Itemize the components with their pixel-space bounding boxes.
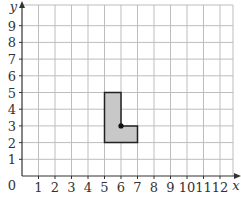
y-tick-label: 4 — [8, 102, 16, 117]
axes — [19, 1, 241, 179]
y-tick-label: 8 — [8, 35, 16, 50]
x-tick-label: 10 — [179, 180, 196, 195]
origin-label: 0 — [8, 178, 16, 193]
coordinate-grid: 1234567891011121234567890xy — [0, 0, 241, 198]
x-tick-label: 11 — [195, 180, 212, 195]
y-axis-label: y — [9, 0, 18, 14]
y-tick-label: 7 — [8, 52, 16, 67]
y-tick-label: 9 — [8, 19, 16, 34]
x-tick-label: 7 — [133, 180, 141, 195]
x-tick-label: 8 — [150, 180, 158, 195]
x-axis-label: x — [232, 178, 240, 193]
y-tick-label: 5 — [8, 86, 16, 101]
y-tick-label: 3 — [8, 119, 16, 134]
x-tick-label: 3 — [67, 180, 75, 195]
x-tick-label: 5 — [100, 180, 108, 195]
x-tick-label: 12 — [212, 180, 229, 195]
x-tick-label: 4 — [84, 180, 92, 195]
x-tick-label: 9 — [166, 180, 174, 195]
x-tick-label: 1 — [34, 180, 42, 195]
grid-lines — [22, 5, 233, 176]
tick-labels: 1234567891011121234567890xy — [8, 0, 241, 195]
y-tick-label: 2 — [8, 136, 16, 151]
x-tick-label: 2 — [51, 180, 59, 195]
l-shape — [105, 93, 138, 143]
y-tick-label: 1 — [8, 152, 16, 167]
l-shape-polygon — [105, 93, 138, 143]
point-dot — [118, 123, 123, 128]
y-tick-label: 6 — [8, 69, 16, 84]
x-tick-label: 6 — [117, 180, 125, 195]
